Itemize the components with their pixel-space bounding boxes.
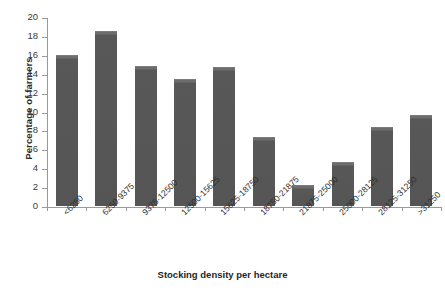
y-axis-tick-label: 0 [33,200,38,211]
bar [135,66,157,206]
bar [371,127,393,206]
y-axis-tick-label: 4 [33,162,38,173]
y-axis-tick: 18 [42,37,47,38]
y-axis-tick: 8 [42,131,47,132]
y-axis-tick: 2 [42,188,47,189]
y-axis-tick-label: 10 [27,106,38,117]
y-axis-tick-label: 2 [33,181,38,192]
y-axis-tick: 10 [42,113,47,114]
bar-chart: Percentage of farmers 02468101214161820 … [0,0,445,292]
y-axis-tick-label: 14 [27,68,38,79]
x-axis-title: Stocking density per hectare [0,269,445,280]
y-axis-tick: 12 [42,94,47,95]
y-axis-tick-label: 20 [27,11,38,22]
x-axis-tick-labels: <62506250-93759375-1250012500-1562515625… [47,210,441,265]
y-axis-tick: 20 [42,18,47,19]
y-axis-line [47,18,48,208]
y-axis-tick-label: 6 [33,143,38,154]
y-axis-tick: 4 [42,169,47,170]
y-axis-tick-label: 18 [27,30,38,41]
y-axis-tick-label: 16 [27,49,38,60]
bar [174,79,196,206]
bar [410,115,432,206]
bar [56,55,78,206]
x-axis-tick [441,207,442,211]
y-axis-tick: 16 [42,56,47,57]
y-axis-tick-label: 8 [33,124,38,135]
bar [95,31,117,206]
y-axis-tick: 6 [42,150,47,151]
y-axis-tick: 14 [42,75,47,76]
plot-area: 02468101214161820 [47,18,441,207]
y-axis-tick-label: 12 [27,87,38,98]
